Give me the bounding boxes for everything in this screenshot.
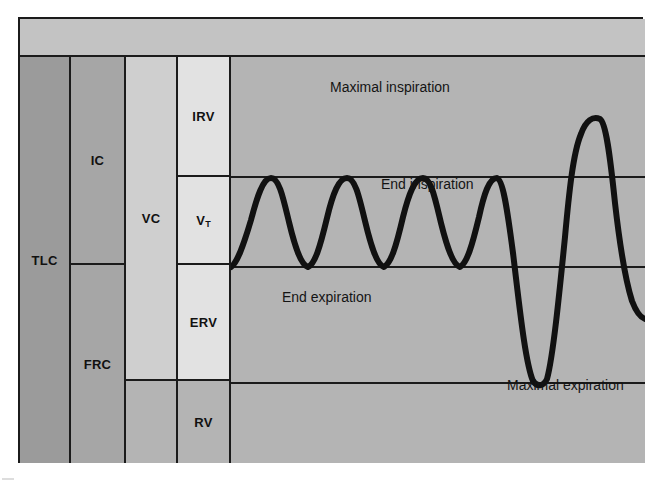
annotation-maximal-inspiration: Maximal inspiration	[330, 80, 450, 94]
spirogram-curve	[231, 118, 645, 385]
spirogram-figure: TLC IC FRC VC IRV VT ERV RV	[18, 17, 643, 463]
column-tlc[interactable]: TLC	[20, 57, 71, 463]
column-label-ic: IC	[91, 153, 105, 168]
annotation-end-inspiration: End inspiration	[381, 177, 474, 191]
annotation-maximal-expiration: Maximal expiration	[507, 378, 624, 392]
annotation-end-expiration: End expiration	[282, 290, 372, 304]
column-label-tlc: TLC	[31, 253, 57, 268]
column-ic[interactable]: IC	[71, 57, 126, 265]
spirogram-svg	[231, 57, 645, 463]
column-label-vt-subscript: T	[205, 219, 211, 229]
spirogram-trace-panel	[231, 57, 645, 463]
column-vc-footer	[126, 381, 178, 463]
column-vt[interactable]: VT	[178, 177, 231, 265]
column-label-vc: VC	[142, 211, 161, 226]
column-label-irv: IRV	[192, 109, 214, 124]
column-vc[interactable]: VC	[126, 57, 178, 381]
column-label-erv: ERV	[190, 315, 217, 330]
column-erv[interactable]: ERV	[178, 265, 231, 381]
column-frc[interactable]: FRC	[71, 265, 126, 463]
column-label-vt-main: V	[196, 213, 205, 228]
column-label-frc: FRC	[84, 357, 112, 372]
column-label-rv: RV	[194, 415, 212, 430]
figure-canvas: TLC IC FRC VC IRV VT ERV RV	[0, 0, 662, 492]
figure-caption-ghost	[4, 470, 304, 484]
column-irv[interactable]: IRV	[178, 57, 231, 177]
column-rv[interactable]: RV	[178, 381, 231, 463]
figure-header-band	[20, 19, 645, 57]
column-label-vt: VT	[196, 213, 210, 228]
